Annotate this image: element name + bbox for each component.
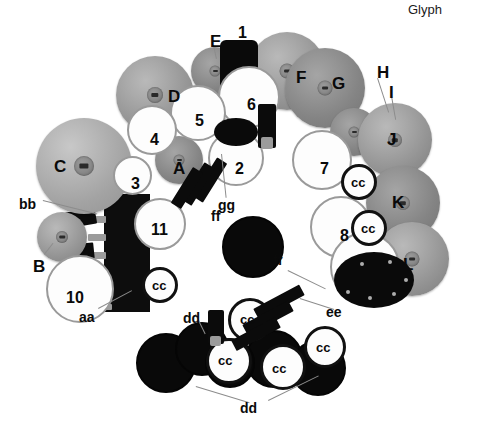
part-label-gg: gg xyxy=(218,198,235,212)
part-label-bb: bb xyxy=(19,197,36,211)
mount-clamp-center-top xyxy=(261,137,273,149)
drum-label-8: 8 xyxy=(340,228,349,244)
drum-label-1: 1 xyxy=(238,25,247,41)
cymbal-label-e: E xyxy=(210,33,221,50)
rack-arm-3 xyxy=(88,234,106,241)
part-label-cc-5: cc xyxy=(316,341,330,354)
cymbal-bell-e xyxy=(210,66,221,77)
drum-lug-9d xyxy=(404,278,408,282)
part-label-cc-1: cc xyxy=(351,176,365,189)
part-label-ff-2: ff xyxy=(273,253,282,267)
cymbal-bell-g xyxy=(318,81,333,96)
cymbal-label-c: C xyxy=(54,158,66,175)
part-label-cc-3: cc xyxy=(152,279,166,292)
cymbal-bell-c xyxy=(74,156,94,176)
center-drum xyxy=(222,216,284,278)
cymbal-label-l: L xyxy=(403,256,413,273)
drum-label-7: 7 xyxy=(320,161,329,177)
part-label-dd-1: dd xyxy=(183,311,200,325)
part-label-cc-6: cc xyxy=(218,354,232,367)
drum-label-5: 5 xyxy=(195,113,204,129)
part-label-cc-2: cc xyxy=(361,222,375,235)
drum-label-11: 11 xyxy=(151,222,168,238)
drum-label-4: 4 xyxy=(150,132,159,148)
cymbal-label-j: J xyxy=(387,131,396,148)
cymbal-label-h: H xyxy=(377,64,389,81)
part-label-cc-7: cc xyxy=(272,362,286,375)
drumkit-figure: Glyph xyxy=(0,0,479,431)
drum-label-10: 10 xyxy=(66,290,84,306)
drum-lug-9f xyxy=(388,260,392,264)
drum-shell-2 xyxy=(214,118,258,146)
cymbal-label-k: K xyxy=(392,194,404,211)
mount-clamp-bottom xyxy=(210,336,221,346)
cymbal-label-d: D xyxy=(168,88,180,105)
cymbal-label-f: F xyxy=(296,69,306,86)
cymbal-bell-b xyxy=(56,231,68,243)
drum-label-6: 6 xyxy=(247,97,256,113)
drum-label-2: 2 xyxy=(235,161,244,177)
cymbal-label-b: B xyxy=(33,258,45,275)
part-label-ee: ee xyxy=(326,305,342,319)
part-label-aa: aa xyxy=(79,310,95,324)
drum-lug-9b xyxy=(368,296,372,300)
part-label-cc-4: cc xyxy=(240,313,254,326)
cymbal-bell-d xyxy=(147,87,163,103)
drum-lug-9c xyxy=(392,292,396,296)
drum-label-9: 9 xyxy=(363,266,372,282)
drum-lug-9a xyxy=(346,290,350,294)
figure-corner-caption: Glyph xyxy=(408,2,442,17)
cymbal-label-g: G xyxy=(332,75,345,92)
cymbal-label-a: A xyxy=(173,160,185,177)
part-label-dd-2: dd xyxy=(240,401,257,415)
drum-shell-9 xyxy=(334,252,414,308)
drum-label-3: 3 xyxy=(131,176,140,192)
cymbal-label-i: I xyxy=(389,84,394,101)
